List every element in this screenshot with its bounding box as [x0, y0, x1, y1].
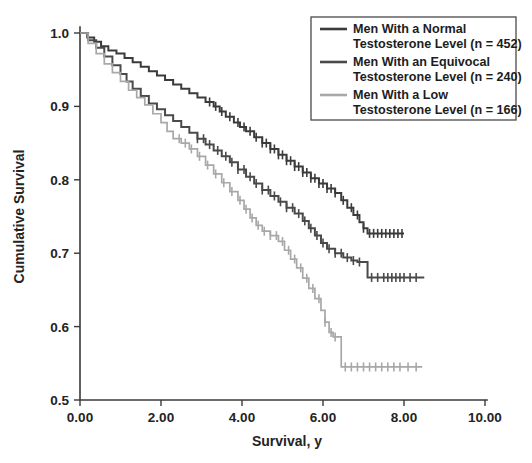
y-axis-title: Cumulative Survival — [11, 150, 27, 284]
x-tick-label: 0.00 — [67, 410, 93, 425]
legend-label-1-line1: Men With an Equivocal — [353, 55, 490, 69]
legend-label-2-line1: Men With a Low — [353, 88, 448, 102]
kaplan-meier-plot: 0.50.60.70.80.91.00.002.004.006.008.0010… — [0, 0, 532, 463]
x-tick-label: 2.00 — [148, 410, 174, 425]
legend-label-2-line2: Testosterone Level (n = 166) — [353, 103, 522, 117]
survival-chart-figure: 0.50.60.70.80.91.00.002.004.006.008.0010… — [0, 0, 532, 463]
y-tick-label: 0.7 — [50, 246, 69, 261]
x-tick-label: 6.00 — [310, 410, 336, 425]
censoring-marks-layer — [179, 97, 416, 371]
x-tick-label: 10.00 — [468, 410, 502, 425]
y-tick-label: 0.6 — [50, 320, 69, 335]
y-tick-label: 0.8 — [50, 173, 69, 188]
y-tick-label: 1.0 — [50, 26, 69, 41]
x-tick-label: 8.00 — [391, 410, 417, 425]
x-axis-title: Survival, y — [252, 433, 322, 449]
chart-legend: Men With a NormalTestosterone Level (n =… — [311, 17, 522, 120]
legend-label-0-line2: Testosterone Level (n = 452) — [353, 37, 522, 51]
y-tick-label: 0.5 — [50, 393, 69, 408]
legend-label-0-line1: Men With a Normal — [353, 22, 466, 36]
legend-label-1-line2: Testosterone Level (n = 240) — [353, 70, 522, 84]
y-tick-label: 0.9 — [50, 99, 69, 114]
x-tick-label: 4.00 — [229, 410, 255, 425]
